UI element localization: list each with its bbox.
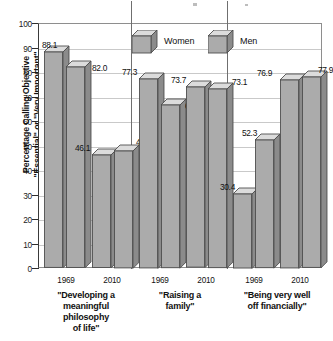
bar-men-1-1969	[161, 99, 186, 268]
y-axis-title-line1: Percentage Calling Objective	[21, 20, 32, 210]
bar-value-label-men-2-2010: 77.9	[318, 65, 333, 75]
x-group-label-financial: "Being very well off financially"	[225, 290, 329, 312]
x-year-label-g1-1969: 1969	[138, 276, 182, 285]
x-group-label-philosophy: "Developing a meaningful philosophy of l…	[36, 290, 136, 334]
x-group-label-line: "Developing a	[36, 290, 136, 301]
bar-value-label-women-2-2010: 76.9	[257, 68, 272, 78]
legend: Women	[132, 30, 158, 58]
x-year-label-g0-2010: 2010	[90, 276, 134, 285]
x-year-label-g1-2010: 2010	[184, 276, 228, 285]
x-group-label-line: off financially"	[225, 301, 329, 312]
x-group-label-line: "Raising a	[133, 290, 227, 301]
x-year-label-g0-1969: 1969	[44, 276, 88, 285]
y-tick-label-0: 0	[2, 264, 32, 274]
legend-swatch-women-icon	[132, 30, 158, 54]
gridline-90	[39, 49, 321, 50]
legend-label-men: Men	[240, 36, 257, 46]
bar-value-label-women-2-1969: 30.4	[220, 182, 235, 192]
bar-men-0-2010	[114, 145, 139, 268]
bar-value-label-women-1-1969: 77.3	[122, 67, 137, 77]
y-tick-label-10: 10	[2, 240, 32, 250]
bar-value-label-men-1-2010: 73.1	[232, 77, 247, 87]
scan-artifact	[245, 4, 248, 6]
x-year-label-g2-2010: 2010	[278, 276, 322, 285]
bar-value-label-men-0-1969: 82.0	[92, 63, 107, 73]
bar-value-label-women-0-2010: 46.1	[75, 143, 90, 153]
x-group-label-line: of life"	[36, 323, 136, 334]
bar-value-label-women-0-1969: 88.1	[42, 40, 57, 50]
bar-value-label-women-1-2010: 73.7	[171, 75, 186, 85]
x-group-label-line: philosophy	[36, 312, 136, 323]
legend-swatch-men-icon	[208, 30, 234, 54]
bar-men-0-1969	[66, 61, 91, 268]
bar-men-2-1969	[255, 134, 280, 268]
x-year-label-g2-1969: 1969	[232, 276, 276, 285]
legend-label-women: Women	[164, 36, 194, 46]
x-group-label-family: "Raising a family"	[133, 290, 227, 312]
bar-men-2-2010	[302, 71, 327, 268]
x-group-label-line: family"	[133, 301, 227, 312]
bar-men-1-2010	[208, 83, 233, 268]
legend-item-men: Men	[208, 30, 234, 58]
bar-value-label-men-2-1969: 52.3	[242, 128, 257, 138]
y-tick-label-20: 20	[2, 215, 32, 225]
x-group-label-line: "Being very well	[225, 290, 329, 301]
x-group-label-line: meaningful	[36, 301, 136, 312]
scan-artifact	[193, 3, 197, 6]
